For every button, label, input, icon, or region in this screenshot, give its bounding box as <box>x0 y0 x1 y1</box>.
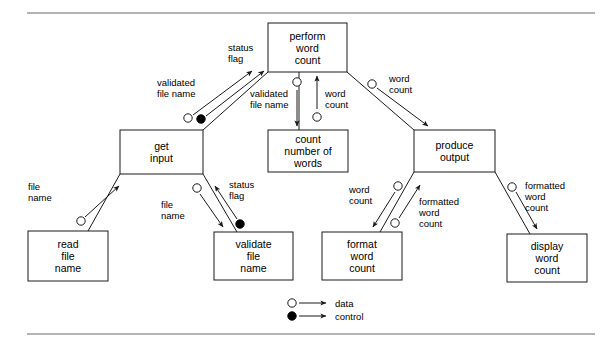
couple-label: filename <box>161 199 185 221</box>
couple-label: statusflag <box>229 179 255 201</box>
data-couple-icon <box>394 182 402 190</box>
couple-arrow <box>85 186 119 217</box>
couple-arrow <box>193 71 252 115</box>
module-get-input[interactable]: getinput <box>120 130 203 174</box>
module-format-word-count[interactable]: formatwordcount <box>322 232 402 280</box>
control-couple-icon <box>236 220 244 228</box>
get-to-read-line <box>88 174 120 231</box>
legend-item-legend-control: control <box>288 311 364 322</box>
module-perform-word-count[interactable]: performwordcount <box>268 23 347 72</box>
couple-label: wordcount <box>388 73 413 95</box>
couple-label: validatedfile name <box>250 88 289 110</box>
structure-chart-canvas: validatedfile namestatusflagvalidatedfil… <box>0 0 613 347</box>
structure-chart-page: validatedfile namestatusflagvalidatedfil… <box>0 0 613 347</box>
couple-label: wordcount <box>348 184 373 206</box>
data-couple-icon <box>508 183 516 191</box>
couple-arrow <box>399 185 420 218</box>
couple-formatted-word-count-produce-to-display: formattedwordcount <box>508 180 565 229</box>
couple-arrow <box>200 194 223 227</box>
couple-validated-file-name-up: validatedfile name <box>157 71 252 122</box>
module-label: formatwordcount <box>347 238 377 274</box>
module-produce-output[interactable]: produceoutput <box>414 130 495 172</box>
couple-label: validatedfile name <box>157 77 196 99</box>
data-couple-icon <box>184 114 192 122</box>
data-couple-icon <box>293 78 301 86</box>
module-display-word-count[interactable]: displaywordcount <box>507 234 587 282</box>
couple-status-flag-up: statusflag <box>197 42 264 123</box>
data-couple-icon <box>391 219 399 227</box>
couple-validated-file-name-down: validatedfile name <box>250 78 301 126</box>
module-count-number-of-words[interactable]: countnumber ofwords <box>268 130 348 172</box>
couple-label: formattedwordcount <box>418 196 459 229</box>
control-couple-icon <box>197 115 205 123</box>
module-read-file-name[interactable]: readfilename <box>28 231 108 281</box>
data-couple-icon <box>77 217 85 225</box>
couple-word-count-up-to-perform: wordcount <box>313 76 349 121</box>
couple-file-name-read-to-get: filename <box>28 181 119 225</box>
module-validate-file-name[interactable]: validatefilename <box>214 232 293 280</box>
couple-label: wordcount <box>324 88 349 110</box>
couple-label: statusflag <box>228 42 254 64</box>
legend: datacontrol <box>288 298 364 322</box>
couple-status-flag-validate-to-get: statusflag <box>215 179 255 228</box>
legend-label: control <box>335 311 364 322</box>
legend-item-legend-data: data <box>288 298 354 309</box>
couple-file-name-get-to-validate: filename <box>161 184 223 227</box>
couple-formatted-word-count-format-to-produce: formattedwordcount <box>391 185 459 229</box>
module-boxes: performwordcountgetinputcountnumber ofwo… <box>28 23 587 282</box>
couple-label: formattedwordcount <box>524 180 565 213</box>
data-couple-icon <box>313 113 321 121</box>
data-couple-icon <box>368 80 376 88</box>
legend-label: data <box>335 298 354 309</box>
couple-word-count-to-produce: wordcount <box>368 73 428 126</box>
couple-label: filename <box>28 181 52 203</box>
data-couple-icon <box>288 299 296 307</box>
data-couple-icon <box>193 184 201 192</box>
module-label: produceoutput <box>436 139 474 163</box>
control-couple-icon <box>288 312 296 320</box>
